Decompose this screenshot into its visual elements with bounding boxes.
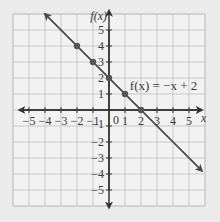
x-tick-label: −3 (55, 114, 68, 128)
data-point (90, 59, 96, 65)
x-tick-label: 4 (170, 114, 176, 128)
x-tick-label: 1 (122, 114, 128, 128)
y-tick-label: −1 (91, 117, 104, 131)
x-tick-label: 2 (138, 114, 144, 128)
x-tick-label: −4 (39, 114, 52, 128)
data-point (74, 43, 80, 49)
y-tick-label: −2 (91, 135, 104, 149)
x-tick-label: 5 (186, 114, 192, 128)
y-tick-label: −4 (91, 167, 104, 181)
y-tick-label: 5 (98, 23, 104, 37)
origin-label: 0 (113, 113, 119, 127)
y-tick-label: 1 (98, 87, 104, 101)
data-point (122, 91, 128, 97)
function-graph: −5−4−3−2−112345−5−4−3−2−1123450xf(x)f(x)… (0, 0, 220, 222)
x-tick-label: −5 (23, 114, 36, 128)
data-point (106, 75, 112, 81)
y-tick-label: 2 (98, 71, 104, 85)
y-tick-label: −3 (91, 151, 104, 165)
function-label: f(x) = −x + 2 (130, 78, 197, 93)
y-tick-label: 3 (98, 55, 104, 69)
y-axis-label: f(x) (90, 9, 107, 23)
y-tick-label: −5 (91, 183, 104, 197)
data-point (138, 107, 144, 113)
x-tick-label: −2 (71, 114, 84, 128)
x-axis-label: x (200, 111, 207, 125)
y-tick-label: 4 (98, 39, 104, 53)
